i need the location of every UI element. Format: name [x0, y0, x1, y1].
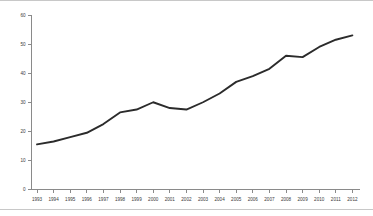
x-tick-label: 2008	[281, 197, 292, 202]
line-chart-plot: 0102030405060 19931994199519961997199819…	[0, 0, 373, 216]
y-tick-label: 50	[20, 42, 26, 47]
x-tick-label: 1995	[65, 197, 76, 202]
x-axis: 1993199419951996199719981999200020012002…	[32, 190, 361, 202]
y-tick-label: 20	[20, 129, 26, 134]
x-tick-label: 2010	[314, 197, 325, 202]
x-tick-label: 2007	[264, 197, 275, 202]
y-tick-label: 0	[23, 187, 26, 192]
y-tick-marks	[28, 15, 32, 190]
x-tick-label: 1998	[115, 197, 126, 202]
y-tick-labels: 0102030405060	[20, 13, 26, 193]
x-tick-label: 1993	[32, 197, 43, 202]
x-tick-label: 2011	[331, 197, 341, 202]
x-tick-label: 2009	[297, 197, 308, 202]
x-tick-label: 2005	[231, 197, 242, 202]
x-tick-label: 1999	[131, 197, 142, 202]
x-tick-label: 2002	[181, 197, 192, 202]
x-tick-label: 2000	[148, 197, 159, 202]
x-tick-labels: 1993199419951996199719981999200020012002…	[32, 197, 358, 202]
x-tick-label: 2001	[165, 197, 176, 202]
x-tick-label: 2004	[214, 197, 225, 202]
y-axis: 0102030405060	[20, 13, 31, 193]
x-tick-label: 1994	[48, 197, 59, 202]
x-tick-label: 2006	[248, 197, 259, 202]
y-tick-label: 60	[20, 13, 26, 18]
data-series-line	[37, 35, 352, 144]
x-tick-label: 2003	[198, 197, 209, 202]
x-tick-label: 1996	[82, 197, 93, 202]
x-tick-label: 1997	[98, 197, 109, 202]
y-tick-label: 40	[20, 71, 26, 76]
x-tick-label: 2012	[347, 197, 358, 202]
x-tick-marks	[37, 190, 352, 194]
chart-figure: 0102030405060 19931994199519961997199819…	[0, 0, 373, 216]
y-tick-label: 30	[20, 100, 26, 105]
y-tick-label: 10	[20, 158, 26, 163]
